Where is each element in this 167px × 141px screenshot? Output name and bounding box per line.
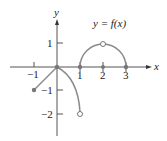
y-tick-label: −2 xyxy=(41,108,53,120)
closed-point xyxy=(32,88,36,92)
x-tick-label: 3 xyxy=(123,69,129,81)
x-axis-arrow-icon xyxy=(146,65,152,69)
y-tick-label: 1 xyxy=(47,37,53,49)
graph-canvas: x y −1 1 2 3 1 −1 −2 y = f(x) xyxy=(0,0,167,141)
axis-point xyxy=(101,65,105,69)
y-axis-label: y xyxy=(53,6,59,18)
function-label: y = f(x) xyxy=(92,17,126,30)
open-point xyxy=(78,112,83,117)
closed-point xyxy=(124,65,128,69)
closed-point xyxy=(55,65,59,69)
open-point xyxy=(101,42,106,47)
x-axis-label: x xyxy=(153,60,159,72)
x-tick-label: −1 xyxy=(27,68,39,80)
y-tick-label: −1 xyxy=(41,84,53,96)
closed-point xyxy=(78,65,82,69)
x-tick-label: 1 xyxy=(77,69,83,81)
x-tick-label: 2 xyxy=(100,69,106,81)
y-axis-arrow-icon xyxy=(55,19,59,25)
